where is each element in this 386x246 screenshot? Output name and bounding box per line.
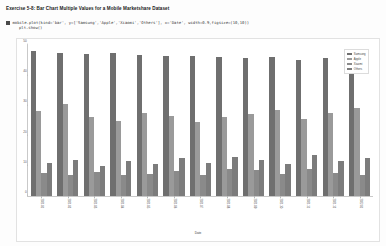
legend-item[interactable]: Xiaomi [347, 62, 365, 66]
y-axis-tick-mark [27, 135, 28, 136]
bar-others [47, 163, 52, 196]
legend-item[interactable]: Apple [347, 57, 365, 61]
y-axis-tick-label: 0 [25, 190, 28, 194]
legend-swatch [347, 68, 352, 70]
x-axis-tick-mark [147, 196, 148, 198]
bar-others [206, 163, 211, 196]
x-axis-tick-label: 2021-09 [252, 199, 255, 209]
x-axis-tick-label: 2021-11 [305, 199, 308, 209]
plot-area: 2021-012021-022021-032021-042021-052021-… [27, 45, 373, 197]
y-axis-tick-mark [27, 74, 28, 75]
x-axis-tick-label: 2021-07 [199, 199, 202, 209]
x-axis-tick-mark [174, 196, 175, 198]
legend-label: Others [354, 67, 362, 71]
bar-others [338, 161, 343, 196]
code-cell[interactable]: mobile.plot(kind='bar', y=['Samsung','Ap… [6, 20, 380, 31]
bar-group: 2021-11 [293, 45, 320, 196]
cell-marker-icon [6, 21, 10, 25]
notebook-page: Exercise 5-8: Bar Chart Multiple Values … [0, 0, 386, 246]
x-axis-tick-mark [94, 196, 95, 198]
legend-label: Apple [354, 57, 361, 61]
legend-item[interactable]: Samsung [347, 52, 365, 56]
bar-others [100, 166, 105, 196]
bar-group: 2021-12 [320, 45, 347, 196]
bar-others [232, 157, 237, 196]
bar-group: 2021-05 [134, 45, 161, 196]
chart-figure: 2021-012021-022021-032021-042021-052021-… [16, 38, 380, 242]
legend-item[interactable]: Others [347, 67, 365, 71]
x-axis-tick-label: 2022-01 [358, 199, 361, 209]
code-text[interactable]: mobile.plot(kind='bar', y=['Samsung','Ap… [13, 20, 250, 31]
x-axis-tick-mark [307, 196, 308, 198]
bar-others [179, 158, 184, 196]
x-axis-tick-label: 2021-08 [226, 199, 229, 209]
legend-swatch [347, 58, 352, 60]
x-axis-tick-mark [200, 196, 201, 198]
x-axis-tick-label: 2021-03 [93, 199, 96, 209]
x-axis-tick-mark [227, 196, 228, 198]
bar-group: 2021-09 [240, 45, 267, 196]
x-axis-label: Date [17, 231, 379, 235]
x-axis-tick-mark [254, 196, 255, 198]
y-axis-tick-label: 10 [23, 160, 28, 164]
bar-others [312, 155, 317, 196]
y-axis-tick-label: 30 [23, 99, 28, 103]
bar-groups: 2021-012021-022021-032021-042021-052021-… [28, 45, 373, 196]
chart-legend[interactable]: SamsungAppleXiaomiOthers [344, 49, 369, 74]
legend-swatch [347, 53, 352, 55]
x-axis-tick-mark [68, 196, 69, 198]
bar-group: 2021-06 [161, 45, 188, 196]
x-axis-tick-mark [360, 196, 361, 198]
x-axis-tick-mark [333, 196, 334, 198]
bar-group: 2021-01 [28, 45, 55, 196]
code-line-2: plt.show() [13, 25, 250, 30]
y-axis-tick-mark [27, 165, 28, 166]
code-line-1: mobile.plot(kind='bar', y=['Samsung','Ap… [13, 20, 250, 25]
legend-label: Samsung [354, 52, 366, 56]
legend-swatch [347, 63, 352, 65]
bar-group: 2021-03 [81, 45, 108, 196]
x-axis-tick-mark [41, 196, 42, 198]
bar-group: 2021-08 [214, 45, 241, 196]
bar-others [365, 158, 370, 196]
page-title: Exercise 5-8: Bar Chart Multiple Values … [6, 6, 169, 11]
x-axis-tick-label: 2021-12 [332, 199, 335, 209]
bar-others [153, 164, 158, 196]
x-axis-tick-label: 2021-02 [66, 199, 69, 209]
y-axis-tick-label: 20 [23, 130, 28, 134]
bar-group: 2021-10 [267, 45, 294, 196]
y-axis-tick-mark [27, 105, 28, 106]
x-axis-tick-mark [280, 196, 281, 198]
y-axis-tick-mark [27, 44, 28, 45]
x-axis-tick-label: 2021-05 [146, 199, 149, 209]
bar-group: 2021-04 [108, 45, 135, 196]
bar-others [73, 160, 78, 196]
bar-group: 2021-07 [187, 45, 214, 196]
y-axis-tick-label: 40 [23, 69, 28, 73]
legend-label: Xiaomi [354, 62, 363, 66]
x-axis-tick-mark [121, 196, 122, 198]
y-axis-tick-mark [27, 195, 28, 196]
y-axis-tick-label: 50 [23, 39, 28, 43]
bar-others [285, 164, 290, 196]
x-axis-tick-label: 2021-01 [40, 199, 43, 209]
bar-others [259, 160, 264, 196]
x-axis-tick-label: 2021-04 [119, 199, 122, 209]
bar-group: 2021-02 [55, 45, 82, 196]
x-axis-tick-label: 2021-06 [173, 199, 176, 209]
x-axis-tick-label: 2021-10 [279, 199, 282, 209]
bar-others [126, 161, 131, 196]
